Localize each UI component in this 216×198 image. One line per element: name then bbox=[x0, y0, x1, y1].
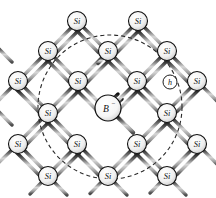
atom-label: Si bbox=[164, 172, 171, 181]
boron-acceptor-atom: B − bbox=[95, 95, 121, 121]
hole-marker: h bbox=[163, 75, 177, 89]
atom-si-4: Si bbox=[99, 42, 118, 61]
atom-label: Si bbox=[105, 172, 112, 181]
atom-si-1: Si bbox=[68, 12, 87, 31]
hole-label: h bbox=[168, 78, 172, 87]
atom-label: Si bbox=[74, 17, 81, 26]
atom-label: Si bbox=[164, 109, 171, 118]
atom-label: Si bbox=[134, 77, 141, 86]
atom-si-6: Si bbox=[9, 72, 28, 91]
atom-si-9: Si bbox=[188, 72, 207, 91]
atom-label: Si bbox=[74, 140, 81, 149]
atom-si-5: Si bbox=[158, 42, 177, 61]
lattice-diagram-figure: Si Si Si Si Si Si bbox=[0, 0, 216, 198]
atom-si-17: Si bbox=[99, 167, 118, 186]
atom-label: Si bbox=[194, 140, 201, 149]
boron-label: B bbox=[103, 103, 109, 114]
silicon-lattice-svg: Si Si Si Si Si Si bbox=[0, 0, 216, 198]
atom-label: Si bbox=[45, 47, 52, 56]
atom-si-10: Si bbox=[39, 104, 58, 123]
atom-label: Si bbox=[194, 77, 201, 86]
atom-label: Si bbox=[15, 140, 22, 149]
atom-label: Si bbox=[135, 17, 142, 26]
atom-si-14: Si bbox=[128, 135, 147, 154]
boron-charge-label: − bbox=[112, 100, 116, 107]
atom-label: Si bbox=[45, 172, 52, 181]
atom-label: Si bbox=[75, 77, 82, 86]
atom-si-12: Si bbox=[9, 135, 28, 154]
atom-si-11: Si bbox=[158, 104, 177, 123]
atom-label: Si bbox=[164, 47, 171, 56]
atom-label: Si bbox=[134, 140, 141, 149]
atom-label: Si bbox=[15, 77, 22, 86]
atom-si-7: Si bbox=[69, 72, 88, 91]
atom-si-13: Si bbox=[68, 135, 87, 154]
atom-si-2: Si bbox=[129, 12, 148, 31]
atom-label: Si bbox=[105, 47, 112, 56]
atom-label: Si bbox=[45, 109, 52, 118]
atom-si-15: Si bbox=[188, 135, 207, 154]
atom-si-18: Si bbox=[158, 167, 177, 186]
atom-si-3: Si bbox=[39, 42, 58, 61]
atom-si-16: Si bbox=[39, 167, 58, 186]
atom-si-8: Si bbox=[128, 72, 147, 91]
